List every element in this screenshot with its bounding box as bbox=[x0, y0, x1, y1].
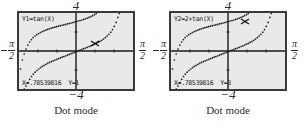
trace-status-bar-right: X=.78539816 Y=3 bbox=[174, 79, 286, 87]
minus-sign-icon bbox=[153, 50, 159, 51]
panel-caption-right: Dot mode bbox=[152, 104, 304, 116]
fraction-numerator: π bbox=[291, 39, 298, 50]
x-axis-min-label-left: π 2 bbox=[1, 39, 15, 61]
calculator-screen-right: Y2=2+tan(X) X=.78539816 Y=3 bbox=[169, 11, 287, 91]
minus-sign-icon bbox=[1, 50, 7, 51]
calculator-panel-right: 4 π 2 π 2 bbox=[152, 0, 304, 127]
pi-over-two-fraction: π 2 bbox=[8, 39, 15, 61]
trace-status-bar-left: X=.78539816 Y=1 bbox=[22, 79, 134, 87]
fraction-denominator: 2 bbox=[139, 50, 146, 62]
fraction-denominator: 2 bbox=[8, 50, 15, 62]
trace-x-value: X=.78539816 bbox=[22, 79, 61, 87]
plot-svg-left bbox=[19, 13, 133, 89]
pi-over-two-fraction: π 2 bbox=[139, 39, 146, 61]
equation-label-right: Y2=2+tan(X) bbox=[174, 15, 214, 23]
fraction-numerator: π bbox=[139, 39, 146, 50]
trace-cursor-right bbox=[241, 19, 249, 24]
fraction-numerator: π bbox=[8, 39, 15, 50]
y-axis-min-label-right: −4 bbox=[152, 88, 304, 101]
tangent-graph-figure: 4 π 2 π 2 bbox=[0, 0, 304, 127]
plot-area-right bbox=[171, 13, 285, 89]
calculator-panel-left: 4 π 2 π 2 bbox=[0, 0, 152, 127]
x-axis-max-label-left: π 2 bbox=[139, 39, 146, 61]
pi-over-two-fraction: π 2 bbox=[160, 39, 167, 61]
equation-label-left: Y1=tan(X) bbox=[22, 15, 55, 23]
x-axis-max-label-right: π 2 bbox=[291, 39, 298, 61]
trace-cursor-left bbox=[91, 41, 99, 46]
plot-svg-right bbox=[171, 13, 285, 89]
x-axis-min-label-right: π 2 bbox=[153, 39, 167, 61]
trace-y-value: Y=3 bbox=[220, 79, 231, 87]
panel-caption-left: Dot mode bbox=[0, 104, 152, 116]
calculator-screen-left: Y1=tan(X) X=.78539816 Y=1 bbox=[17, 11, 135, 91]
fraction-numerator: π bbox=[160, 39, 167, 50]
plot-area-left bbox=[19, 13, 133, 89]
fraction-denominator: 2 bbox=[160, 50, 167, 62]
y-axis-min-label-left: −4 bbox=[0, 88, 152, 101]
trace-x-value: X=.78539816 bbox=[174, 79, 213, 87]
fraction-denominator: 2 bbox=[291, 50, 298, 62]
trace-y-value: Y=1 bbox=[68, 79, 79, 87]
pi-over-two-fraction: π 2 bbox=[291, 39, 298, 61]
